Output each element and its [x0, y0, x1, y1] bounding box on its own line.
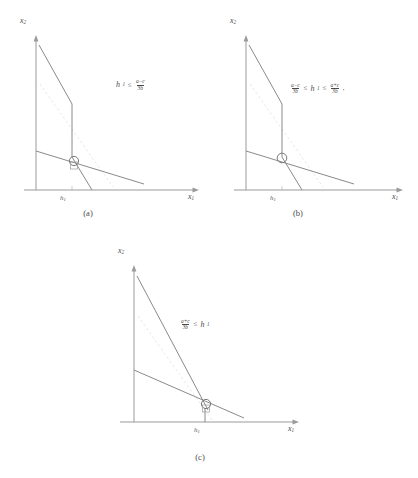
h1-tick-label-c: h1: [194, 426, 200, 434]
panel-c-plot: [104, 252, 314, 452]
y-axis-arrowhead-c: [132, 265, 137, 272]
condition-c: a+c 3b ≤ h1: [180, 310, 210, 331]
steep-line-c: [137, 276, 208, 410]
caption-b: (b): [278, 208, 318, 218]
h1-tick-label-b: h1: [270, 194, 276, 202]
caption-c: (c): [180, 452, 220, 462]
condition-a: h1 ≤ a−c 3b: [116, 74, 146, 91]
y-axis-label-c: x2: [118, 246, 124, 255]
fraction-b-lower: a−c 3b: [290, 83, 301, 95]
y-axis-arrowhead-a: [34, 35, 39, 42]
fraction-c: a+c 3b: [180, 319, 191, 331]
shallow-line-a: [36, 151, 144, 184]
panel-c: x2 x1 h1 a+c 3b ≤ h1: [104, 252, 314, 452]
panel-a: x2 x1 h1 h1 ≤ a−c 3b: [8, 22, 208, 222]
steep-segment-b: [249, 45, 282, 104]
x-axis-label-a: x1: [188, 192, 194, 201]
panel-a-plot: [8, 22, 208, 222]
panel-b: x2 x1 h1 a−c 3b ≤ h1 ≤ a+c 3b ,: [218, 22, 414, 222]
panel-b-plot: [218, 22, 414, 222]
caption-a: (a): [68, 208, 108, 218]
h1-tick-label-a: h1: [60, 194, 66, 202]
y-axis-label-b: x2: [230, 16, 236, 25]
fraction-b-upper: a+c 3b: [330, 83, 341, 95]
y-axis-arrowhead-b: [244, 35, 249, 42]
steep-segment-a: [39, 45, 72, 104]
shallow-line-b: [246, 151, 354, 184]
x-axis-label-b: x1: [392, 192, 398, 201]
faint-diagonal-c: [138, 316, 212, 420]
x-axis-label-c: x1: [288, 424, 294, 433]
y-axis-label-a: x2: [20, 16, 26, 25]
fraction-a: a−c 3b: [135, 79, 146, 91]
condition-b: a−c 3b ≤ h1 ≤ a+c 3b ,: [290, 74, 345, 95]
shallow-line-c: [134, 370, 244, 418]
